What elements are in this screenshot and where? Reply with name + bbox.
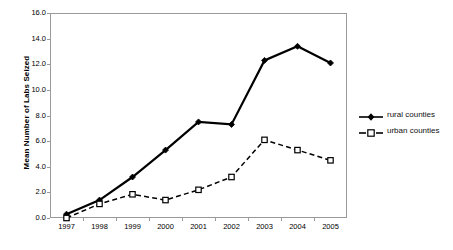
legend-item-urban-counties[interactable]: urban counties — [358, 124, 453, 137]
data-point-marker — [64, 215, 69, 220]
data-point-marker — [229, 174, 234, 179]
data-point-marker — [196, 187, 201, 192]
data-point-marker — [295, 147, 300, 152]
data-point-marker — [328, 158, 333, 163]
chart-figure: Mean Number of Labs Seized 16.014.012.01… — [0, 0, 453, 250]
series-line — [67, 140, 331, 218]
filled-diamond-marker-icon — [358, 109, 384, 121]
open-square-marker-icon — [358, 125, 384, 137]
legend-item-rural-counties[interactable]: rural counties — [358, 108, 453, 121]
legend-label-rural-counties: rural counties — [384, 110, 435, 119]
data-point-marker — [97, 201, 102, 206]
data-point-marker — [130, 192, 135, 197]
data-point-marker — [163, 197, 168, 202]
series-urban-counties — [64, 137, 333, 221]
legend-label-urban-counties: urban counties — [384, 126, 439, 135]
chart-legend: rural counties urban counties — [358, 108, 453, 140]
data-point-marker — [262, 137, 267, 142]
